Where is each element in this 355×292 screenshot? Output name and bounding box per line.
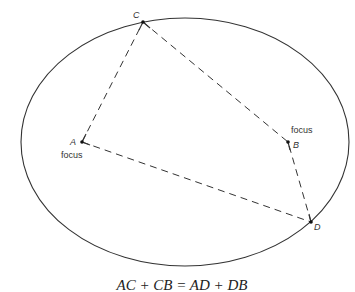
point-c <box>141 20 145 24</box>
label-b: B <box>293 140 299 150</box>
point-d <box>309 220 313 224</box>
point-b <box>286 140 290 144</box>
label-a: A <box>69 137 76 147</box>
label-d: D <box>314 222 321 232</box>
label-c: C <box>133 10 140 20</box>
label-a-focus: focus <box>61 150 83 160</box>
label-b-focus: focus <box>291 125 313 135</box>
segment-db <box>288 142 311 222</box>
segment-ad <box>82 142 311 222</box>
equation-caption: AC + CB = AD + DB <box>116 277 248 292</box>
segment-cb <box>143 22 288 142</box>
point-a <box>80 140 84 144</box>
ellipse-diagram: C A focus focus B D AC + CB = AD + DB <box>0 0 355 292</box>
